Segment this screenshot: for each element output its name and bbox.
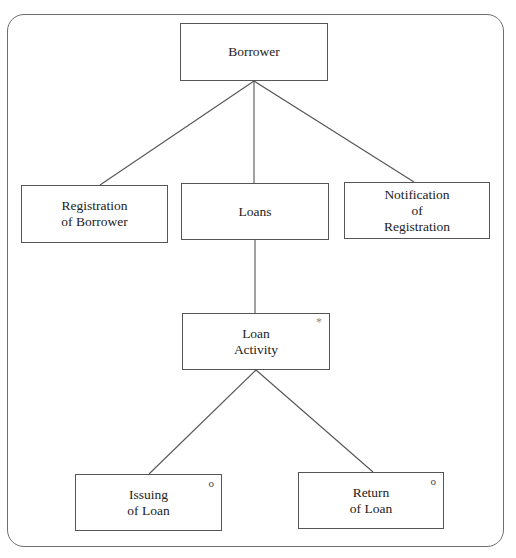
node-label-line: of Loan <box>350 501 392 517</box>
node-registration-of-borrower: Registration of Borrower <box>21 185 168 243</box>
node-label-line: of <box>411 203 422 219</box>
node-loan-activity: * Loan Activity <box>182 313 330 370</box>
node-label-line: of Loan <box>127 503 169 519</box>
iteration-marker: * <box>316 316 322 328</box>
node-label-line: Notification <box>384 187 449 203</box>
edge-borrower-notification <box>254 81 414 182</box>
node-label-line: Loans <box>239 204 272 220</box>
selection-marker: o <box>209 477 215 489</box>
node-label-line: Borrower <box>228 44 280 60</box>
node-notification-of-registration: Notification of Registration <box>344 182 490 239</box>
selection-marker: o <box>431 475 437 487</box>
node-label-line: Registration <box>62 198 128 214</box>
node-return-of-loan: o Return of Loan <box>298 472 444 529</box>
node-label-line: Issuing <box>129 487 168 503</box>
edge-loanactivity-issuing <box>149 370 256 474</box>
edge-loanactivity-return <box>256 370 373 472</box>
node-label-line: Return <box>353 485 390 501</box>
node-label-line: Activity <box>234 342 278 358</box>
node-label-line: of Borrower <box>61 214 127 230</box>
node-issuing-of-loan: o Issuing of Loan <box>75 474 222 531</box>
node-borrower: Borrower <box>180 23 328 81</box>
node-label-line: Loan <box>242 326 270 342</box>
node-loans: Loans <box>181 183 329 240</box>
node-label-line: Registration <box>384 219 450 235</box>
edge-borrower-registration <box>100 81 254 185</box>
